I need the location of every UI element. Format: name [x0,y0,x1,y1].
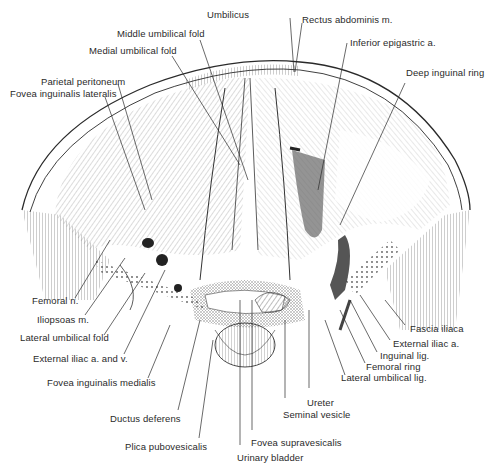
label-fovea-inguinalis-lateralis: Fovea inguinalis lateralis [10,88,117,99]
label-lateral-umbilical-fold: Lateral umbilical fold [20,332,109,343]
label-iliopsoas: Iliopsoas m. [37,314,89,325]
label-ureter: Ureter [307,397,334,408]
label-rectus-abdominis: Rectus abdominis m. [302,14,393,25]
label-external-iliac-av: External iliac a. and v. [33,353,128,364]
label-inferior-epigastric: Inferior epigastric a. [350,37,436,48]
anatomical-figure: Umbilicus Rectus abdominis m. Middle umb… [0,0,491,470]
label-femoral-n: Femoral n. [32,295,78,306]
label-deep-inguinal-ring: Deep inguinal ring [406,67,484,78]
label-lateral-umbilical-lig: Lateral umbilical lig. [341,372,427,383]
label-plica-pubovesicalis: Plica pubovesicalis [125,441,207,452]
label-femoral-ring: Femoral ring [366,361,421,372]
label-umbilicus: Umbilicus [207,9,249,20]
label-middle-umbilical-fold: Middle umbilical fold [117,28,205,39]
label-inguinal-lig: Inguinal lig. [380,350,429,361]
label-fovea-inguinalis-medialis: Fovea inguinalis medialis [47,377,156,388]
label-external-iliac-a: External iliac a. [393,338,459,349]
label-ductus-deferens: Ductus deferens [110,413,181,424]
label-fovea-supravesicalis: Fovea supravesicalis [251,437,342,448]
label-urinary-bladder: Urinary bladder [237,452,303,463]
label-fascia-iliaca: Fascia iliaca [410,323,464,334]
label-parietal-peritoneum: Parietal peritoneum [41,76,125,87]
label-seminal-vesicle: Seminal vesicle [283,409,351,420]
label-medial-umbilical-fold: Medial umbilical fold [89,45,177,56]
